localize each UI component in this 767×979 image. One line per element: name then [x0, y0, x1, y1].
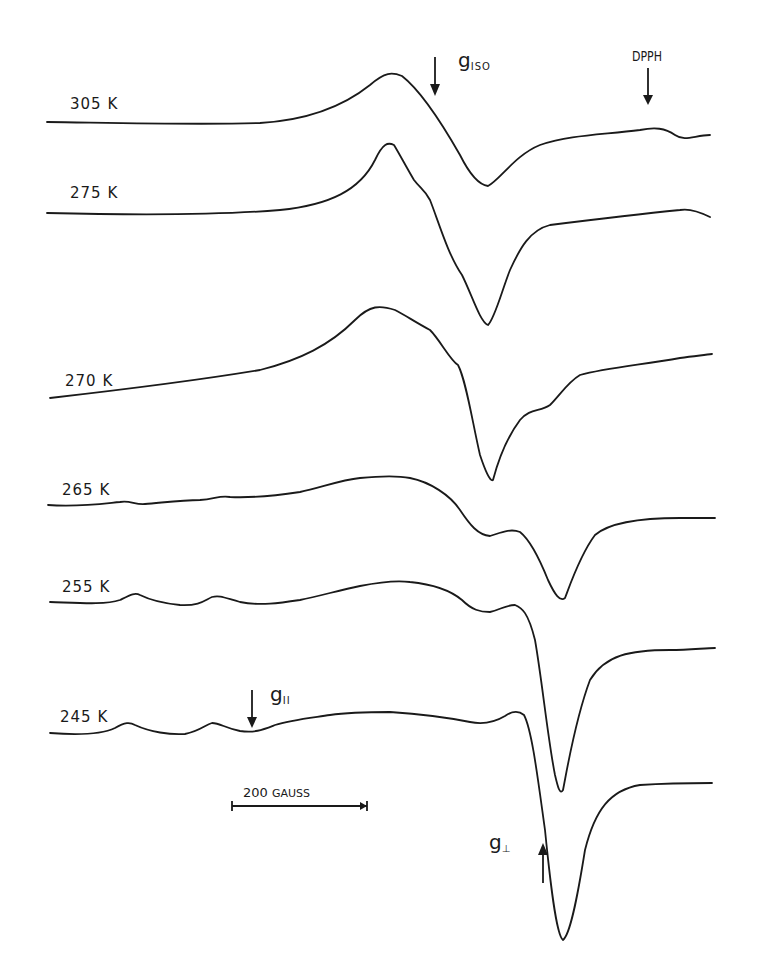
scale-bar — [232, 801, 367, 811]
trace-265k — [48, 476, 715, 599]
label-g-parallel: gII — [270, 682, 291, 706]
label-g-iso: gISO — [458, 48, 491, 72]
trace-255k — [50, 581, 715, 791]
label-265k: 265 K — [62, 481, 110, 499]
epr-spectra-plot — [0, 0, 767, 979]
label-g-perp: g⊥ — [489, 830, 511, 854]
trace-245k — [50, 712, 712, 940]
dpph-arrow — [643, 68, 653, 105]
label-255k: 255 K — [62, 578, 110, 596]
label-275k: 275 K — [70, 184, 118, 202]
label-305k: 305 K — [70, 95, 118, 113]
label-scale-bar: 200 GAUSS — [243, 785, 310, 800]
g-iso-arrow — [430, 57, 440, 96]
trace-275k — [47, 144, 710, 325]
label-245k: 245 K — [60, 708, 108, 726]
g-parallel-arrow — [247, 690, 257, 728]
label-270k: 270 K — [65, 372, 113, 390]
trace-270k — [50, 307, 712, 480]
trace-305k — [47, 74, 710, 186]
label-dpph: DPPH — [632, 48, 662, 65]
